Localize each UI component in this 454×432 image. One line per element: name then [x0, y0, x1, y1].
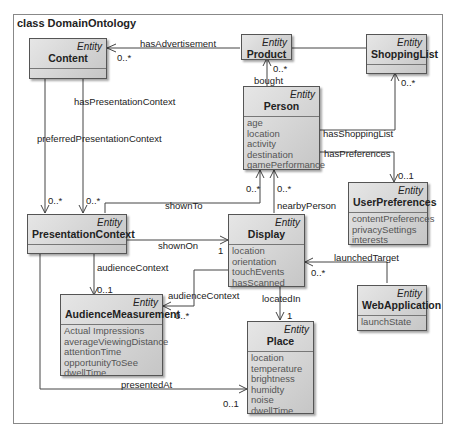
class-user-preferences[interactable]: Entity UserPreferences contentPreference…: [348, 182, 428, 245]
attribute-compartment: [367, 65, 426, 74]
attribute: Actual Impressions: [64, 326, 159, 337]
class-shopping-list[interactable]: Entity ShoppingList: [366, 34, 427, 74]
class-name: Content: [34, 52, 102, 65]
attribute: attentionTime: [64, 347, 159, 358]
association-label: presentedAt: [121, 379, 172, 390]
class-audience-measurement[interactable]: Entity AudienceMeasurement Actual Impres…: [60, 294, 163, 376]
attribute: activity: [247, 139, 316, 150]
attribute: dwellTime: [251, 406, 310, 417]
multiplicity-label: 0..*: [277, 183, 291, 194]
multiplicity-label: 0..*: [86, 195, 100, 206]
class-display[interactable]: Entity Display location orientation touc…: [228, 214, 305, 287]
multiplicity-label: 0..*: [117, 52, 131, 63]
stereotype-label: Entity: [371, 37, 422, 48]
association-label: nearbyPerson: [277, 200, 336, 211]
attribute-compartment: launchState: [358, 316, 426, 330]
class-name: PresentationContext: [32, 228, 122, 241]
attribute: gamePerformance: [247, 160, 316, 171]
association-label: bought: [254, 75, 283, 86]
class-content[interactable]: Entity Content: [29, 38, 107, 79]
class-name: Product: [246, 48, 287, 61]
attribute: location: [232, 246, 301, 257]
class-header: Entity Content: [30, 39, 106, 69]
multiplicity-label: 0..*: [48, 195, 62, 206]
stereotype-label: Entity: [233, 217, 300, 228]
attribute: launchState: [361, 317, 423, 328]
multiplicity-label: 0..1: [398, 170, 414, 181]
multiplicity-label: 0..1: [97, 284, 113, 295]
association-label: hasPreferences: [324, 148, 391, 159]
stereotype-label: Entity: [252, 324, 309, 335]
multiplicity-label: 0..*: [311, 267, 325, 278]
class-header: Entity UserPreferences: [349, 183, 427, 213]
association-label: hasAdvertisement: [140, 38, 216, 49]
attribute: dwellTime: [64, 368, 159, 379]
attribute-compartment: [30, 69, 106, 78]
association-label: hasPresentationContext: [74, 96, 175, 107]
multiplicity-label: 0..1: [223, 398, 239, 409]
attribute: brightness: [251, 374, 310, 385]
association-label: audienceContext: [168, 290, 239, 301]
class-header: Entity WebApplication: [358, 286, 426, 316]
attribute: age: [247, 118, 316, 129]
multiplicity-label: 0..*: [401, 77, 415, 88]
attribute: hasScanned: [232, 278, 301, 289]
class-header: Entity Product: [242, 35, 291, 64]
attribute-compartment: Actual Impressions averageViewingDistanc…: [61, 325, 162, 381]
attribute-compartment: age location activity destination gamePe…: [244, 117, 319, 173]
attribute: contentPreferences: [352, 214, 424, 225]
stereotype-label: Entity: [32, 217, 122, 228]
class-product[interactable]: Entity Product: [241, 34, 292, 60]
class-name: AudienceMeasurement: [65, 308, 158, 321]
class-web-application[interactable]: Entity WebApplication launchState: [357, 285, 427, 331]
multiplicity-label: 0..*: [246, 183, 260, 194]
class-person[interactable]: Entity Person age location activity dest…: [243, 86, 320, 170]
class-name: Person: [248, 100, 315, 113]
attribute: interests: [352, 235, 424, 246]
class-header: Entity Person: [244, 87, 319, 117]
association-label: launchedTarget: [334, 252, 399, 263]
attribute-compartment: contentPreferences privacySettings inter…: [349, 213, 427, 248]
association-label: hasShoppingList: [323, 128, 393, 139]
multiplicity-label: 1: [287, 310, 292, 321]
multiplicity-label: 0..*: [273, 63, 287, 74]
multiplicity-label: 0..*: [175, 310, 189, 321]
association-label: preferredPresentationContext: [37, 133, 162, 144]
association-label: locatedIn: [262, 293, 301, 304]
class-name: Display: [233, 228, 300, 241]
multiplicity-label: 1: [218, 245, 223, 256]
class-header: Entity Place: [248, 322, 313, 352]
association-label: audienceContext: [97, 262, 168, 273]
association-label: shownTo: [165, 200, 203, 211]
stereotype-label: Entity: [65, 297, 158, 308]
class-header: Entity Display: [229, 215, 304, 245]
attribute: noise: [251, 395, 310, 406]
class-header: Entity ShoppingList: [367, 35, 426, 65]
class-place[interactable]: Entity Place location temperature bright…: [247, 321, 314, 414]
attribute-compartment: [28, 245, 126, 254]
stereotype-label: Entity: [353, 185, 423, 196]
stereotype-label: Entity: [362, 288, 422, 299]
class-header: Entity PresentationContext: [28, 215, 126, 245]
stereotype-label: Entity: [246, 37, 287, 48]
stereotype-label: Entity: [248, 89, 315, 100]
class-name: ShoppingList: [371, 48, 422, 61]
class-name: UserPreferences: [353, 196, 423, 209]
attribute-compartment: location temperature brightness humidty …: [248, 352, 313, 418]
attribute-compartment: location orientation touchEvents hasScan…: [229, 245, 304, 290]
class-presentation-context[interactable]: Entity PresentationContext: [27, 214, 127, 254]
association-label: shownOn: [158, 240, 198, 251]
class-name: Place: [252, 335, 309, 348]
attribute: touchEvents: [232, 267, 301, 278]
class-header: Entity AudienceMeasurement: [61, 295, 162, 325]
class-name: WebApplication: [362, 299, 422, 312]
attribute: location: [251, 353, 310, 364]
stereotype-label: Entity: [34, 41, 102, 52]
